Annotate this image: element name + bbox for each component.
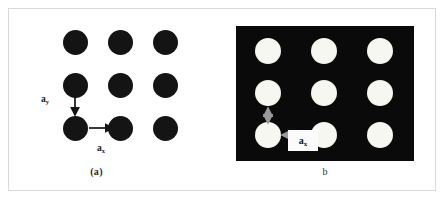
panel-a-lattice: ay ax: [19, 11, 219, 161]
figure-root: ay ax (a): [0, 0, 448, 207]
panel-b: ax b: [236, 11, 431, 191]
panel-b-micrograph: ax: [236, 26, 414, 161]
panel-a-label-ay: ay: [41, 95, 49, 105]
panel-b-label-ax: ax: [299, 136, 308, 146]
panel-a-vector-arrows: [19, 11, 219, 161]
panel-a-label-ax: ax: [97, 144, 105, 154]
panel-a-caption: (a): [19, 166, 174, 177]
panel-a: ay ax (a): [19, 11, 219, 191]
figure-border: ay ax (a): [8, 8, 436, 191]
panel-b-label-ax-box: ax: [288, 130, 318, 151]
panel-b-vector-arrows: [236, 26, 414, 161]
panel-b-caption: b: [236, 166, 414, 177]
